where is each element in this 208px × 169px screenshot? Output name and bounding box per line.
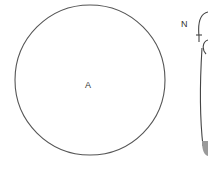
circle-label: A <box>85 81 91 90</box>
tube-label: N <box>181 20 188 29</box>
tube-n-shape <box>196 12 208 146</box>
tube-bottom-fill <box>202 141 208 156</box>
diagram-canvas <box>0 0 208 169</box>
